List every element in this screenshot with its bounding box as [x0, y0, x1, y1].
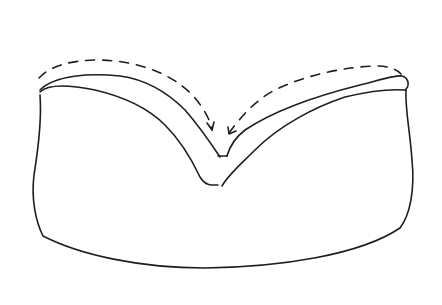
sketch-canvas: Folded loaf/pillow shape with V-shaped c…: [0, 0, 442, 305]
right-top-flap-outer: [227, 76, 408, 156]
right-top-flap-inner: [222, 90, 405, 186]
right-fold-arrow: [229, 66, 401, 133]
body-outline: [33, 90, 413, 268]
left-top-flap-inner: [40, 86, 218, 185]
left-arrowhead-icon: [207, 122, 214, 130]
left-fold-arrow: [39, 60, 212, 130]
folded-shape-drawing: [0, 0, 442, 305]
left-top-flap-outer: [40, 75, 220, 157]
